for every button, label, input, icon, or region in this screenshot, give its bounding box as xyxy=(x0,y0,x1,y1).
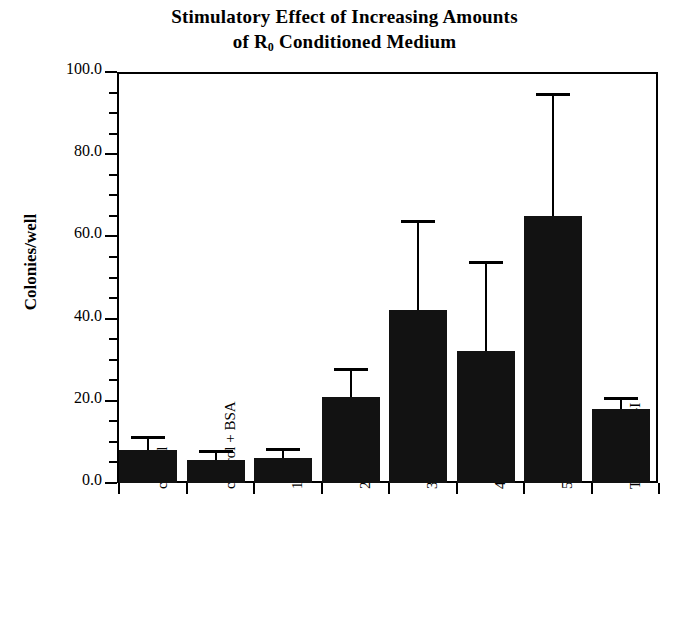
error-bar-line xyxy=(417,220,419,310)
error-bar-cap xyxy=(199,450,233,453)
x-axis-tick xyxy=(321,483,323,494)
y-axis-tick-label: 40.0 xyxy=(22,311,102,321)
y-axis-tick-label-text: 40.0 xyxy=(24,311,102,321)
chart-title-subscript: 0 xyxy=(268,40,274,54)
x-axis-tick xyxy=(658,483,660,494)
x-axis-tick xyxy=(523,483,525,494)
y-axis-tick-major xyxy=(105,235,117,237)
y-axis-tick-major xyxy=(105,153,117,155)
y-axis-tick-minor xyxy=(109,420,117,422)
y-axis-tick-minor xyxy=(109,441,117,443)
bar xyxy=(592,409,650,483)
x-axis-tick xyxy=(591,483,593,494)
bar xyxy=(322,397,380,483)
y-axis-tick-minor xyxy=(109,359,117,361)
y-axis-tick-minor xyxy=(109,133,117,135)
y-axis-tick-major xyxy=(105,400,117,402)
y-axis-tick-label-text: 100.0 xyxy=(24,64,102,74)
error-bar-cap xyxy=(469,261,503,264)
error-bar-cap xyxy=(536,93,570,96)
y-axis-tick-minor xyxy=(109,92,117,94)
y-axis-tick-minor xyxy=(109,112,117,114)
error-bar-cap xyxy=(604,397,638,400)
y-axis-tick-label: 100.0 xyxy=(22,64,102,74)
y-axis-tick-minor xyxy=(109,277,117,279)
chart-title-line2-prefix: of R xyxy=(233,31,268,52)
error-bar-cap xyxy=(131,436,165,439)
y-axis-tick-label: 60.0 xyxy=(22,228,102,238)
error-bar-cap xyxy=(401,220,435,223)
y-axis-tick-major xyxy=(105,318,117,320)
y-axis-tick-label-text: 80.0 xyxy=(24,146,102,156)
chart-title-line2-suffix: Conditioned Medium xyxy=(274,31,456,52)
error-bar-line xyxy=(552,93,554,216)
bar xyxy=(389,310,447,483)
x-axis-tick xyxy=(186,483,188,494)
y-axis-tick-minor xyxy=(109,338,117,340)
error-bar-cap xyxy=(334,368,368,371)
error-bar-line xyxy=(350,368,352,397)
y-axis-tick-minor xyxy=(109,194,117,196)
bar xyxy=(187,460,245,483)
y-axis-tick-major xyxy=(105,71,117,73)
chart-title-line1: Stimulatory Effect of Increasing Amounts xyxy=(171,6,517,27)
chart-title: Stimulatory Effect of Increasing Amounts… xyxy=(0,4,689,57)
bar xyxy=(457,351,515,483)
y-axis-tick-label: 0.0 xyxy=(22,475,102,485)
y-axis-tick-minor xyxy=(109,379,117,381)
x-axis-tick xyxy=(118,483,120,494)
bar-chart-figure: Stimulatory Effect of Increasing Amounts… xyxy=(0,0,689,638)
chart-title-line2: of R0 Conditioned Medium xyxy=(0,29,689,57)
y-axis-tick-minor xyxy=(109,297,117,299)
y-axis-title: Colonies/well xyxy=(21,147,41,377)
y-axis-tick-minor xyxy=(109,461,117,463)
error-bar-cap xyxy=(266,448,300,451)
bar xyxy=(119,450,177,483)
y-axis-tick-minor xyxy=(109,215,117,217)
x-axis-tick xyxy=(456,483,458,494)
x-axis-tick xyxy=(253,483,255,494)
y-axis-tick-minor xyxy=(109,174,117,176)
y-axis-tick-label: 80.0 xyxy=(22,146,102,156)
y-axis-tick-major xyxy=(105,482,117,484)
y-axis-tick-label-text: 60.0 xyxy=(24,228,102,238)
bar xyxy=(254,458,312,483)
y-axis-tick-label-text: 20.0 xyxy=(24,393,102,403)
bars-layer xyxy=(119,72,658,483)
x-axis-tick xyxy=(388,483,390,494)
y-axis-tick-label: 20.0 xyxy=(22,393,102,403)
error-bar-line xyxy=(485,261,487,351)
bar xyxy=(524,216,582,483)
y-axis-tick-minor xyxy=(109,256,117,258)
y-axis-tick-label-text: 0.0 xyxy=(24,475,102,485)
